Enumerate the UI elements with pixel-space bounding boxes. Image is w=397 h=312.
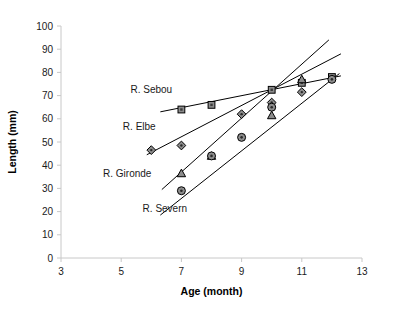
series-label-r-gironde: R. Gironde — [103, 168, 152, 179]
y-tick-label-40: 40 — [42, 160, 54, 171]
y-tick-label-20: 20 — [42, 206, 54, 217]
y-tick-label-90: 90 — [42, 44, 54, 55]
data-point-r-severn-0-center — [180, 189, 183, 192]
y-tick-label-10: 10 — [42, 229, 54, 240]
series-label-r-elbe: R. Elbe — [123, 121, 156, 132]
x-tick-label-13: 13 — [356, 266, 368, 277]
x-tick-label-5: 5 — [118, 266, 124, 277]
x-tick-label-7: 7 — [179, 266, 185, 277]
data-point-r-elbe-0-center — [150, 149, 152, 151]
data-point-r-sebou-1-center — [210, 104, 212, 106]
data-point-r-sebou-2-center — [271, 89, 273, 91]
y-tick-label-80: 80 — [42, 67, 54, 78]
data-point-r-gironde-2 — [268, 111, 276, 119]
data-point-r-gironde-0 — [177, 169, 185, 177]
x-tick-label-11: 11 — [297, 266, 308, 277]
data-point-r-elbe-2-center — [240, 113, 242, 115]
data-point-r-severn-3-center — [270, 106, 273, 109]
y-tick-label-60: 60 — [42, 113, 54, 124]
chart-figure: 010203040506070809010035791113Age (month… — [0, 0, 397, 312]
x-tick-label-3: 3 — [58, 266, 64, 277]
y-tick-label-50: 50 — [42, 137, 54, 148]
data-point-r-severn-2-center — [240, 136, 243, 139]
data-point-r-severn-1-center — [210, 155, 213, 158]
x-tick-label-9: 9 — [239, 266, 245, 277]
y-tick-label-30: 30 — [42, 183, 54, 194]
data-point-r-severn-4-center — [331, 78, 334, 81]
data-point-r-elbe-1-center — [180, 144, 182, 146]
data-point-r-elbe-4-center — [301, 91, 303, 93]
data-point-r-sebou-0-center — [180, 108, 182, 110]
trendline-r-severn — [160, 74, 339, 216]
y-tick-label-70: 70 — [42, 90, 54, 101]
series-label-r-severn: R. Severn — [143, 203, 187, 214]
y-axis-title: Length (mm) — [6, 110, 18, 174]
y-tick-label-100: 100 — [36, 21, 53, 32]
series-label-r-sebou: R. Sebou — [130, 84, 172, 95]
x-axis-title: Age (month) — [181, 285, 243, 297]
scatter-plot-canvas: 010203040506070809010035791113Age (month… — [0, 0, 397, 312]
y-tick-label-0: 0 — [47, 253, 53, 264]
